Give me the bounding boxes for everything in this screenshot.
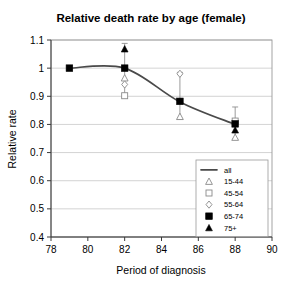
data-point-filled-square	[121, 65, 128, 72]
y-tick-label: 1.1	[30, 35, 44, 46]
legend-label: 55-64	[224, 200, 243, 209]
x-tick-label: 82	[119, 244, 131, 255]
y-axis-title: Relative rate	[6, 109, 18, 168]
legend-item-45-54[interactable]: 45-54	[206, 189, 243, 198]
chart-legend: all15-4445-5455-6465-7475+	[196, 160, 268, 237]
y-tick-label: 0.5	[30, 203, 44, 214]
legend-item-65-74[interactable]: 65-74	[206, 212, 243, 221]
y-tick-label: 0.7	[30, 147, 44, 158]
legend-label: 15-44	[224, 177, 243, 186]
x-tick-label: 90	[266, 244, 278, 255]
x-tick-label: 84	[156, 244, 168, 255]
y-tick-label: 0.9	[30, 91, 44, 102]
y-tick-label: 1	[38, 63, 44, 74]
x-tick-label: 78	[45, 244, 57, 255]
legend-label: 75+	[224, 224, 237, 233]
data-point-filled-square	[66, 65, 73, 72]
y-tick-label: 0.8	[30, 119, 44, 130]
chart-title: Relative death rate by age (female)	[56, 12, 245, 24]
x-axis-title: Period of diagnosis	[116, 264, 205, 276]
legend-marker-filled-square	[206, 213, 213, 220]
x-tick-label: 88	[230, 244, 242, 255]
data-point-filled-square	[177, 98, 184, 105]
legend-label: 65-74	[224, 212, 243, 221]
x-tick-label: 86	[193, 244, 205, 255]
legend-label: 45-54	[224, 189, 243, 198]
y-tick-label: 0.4	[30, 232, 44, 243]
legend-marker-open-square	[206, 190, 212, 196]
relative-death-rate-chart: Relative death rate by age (female) Rela…	[0, 0, 299, 284]
y-tick-label: 0.6	[30, 175, 44, 186]
chart-background	[0, 0, 299, 284]
chart-container: Relative death rate by age (female) Rela…	[0, 0, 299, 284]
legend-label: all	[224, 166, 232, 175]
x-tick-label: 80	[82, 244, 94, 255]
data-point-open-square	[122, 93, 128, 99]
